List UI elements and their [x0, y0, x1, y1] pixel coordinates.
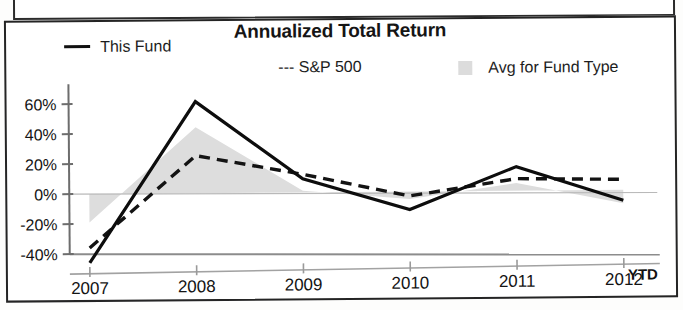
y-axis-ticks: 60%40%20%0%-20%-40%: [19, 96, 74, 263]
y-axis-tick-label: 20%: [25, 156, 57, 173]
y-axis-tick-label: -20%: [20, 216, 57, 233]
x-axis-ticks: 200720082009201020112012: [71, 258, 643, 298]
chart-plot-area: 60%40%20%0%-20%-40% 20072008200920102011…: [6, 17, 676, 300]
y-axis-tick-label: 60%: [24, 96, 56, 113]
x-axis-tick-label: 2010: [391, 273, 429, 292]
annualized-total-return-chart: Annualized Total Return This Fund --- S&…: [4, 15, 678, 302]
y-axis-tick-label: -40%: [20, 246, 57, 263]
x-axis-tick-rail: [70, 263, 660, 274]
y-axis-line: [68, 84, 69, 254]
x-axis-ytd-label: YTD: [628, 266, 658, 283]
series-area-avg-for-fund-type: [89, 124, 624, 223]
x-axis-tick-label: 2007: [71, 279, 109, 298]
y-axis-tick-label: 40%: [25, 126, 57, 143]
x-axis-tick-label: 2011: [499, 272, 536, 291]
x-axis-line: [70, 249, 660, 259]
x-axis-tick-label: 2009: [285, 275, 323, 294]
x-axis-tick-label: 2008: [178, 277, 216, 296]
y-axis-tick-label: 0%: [34, 186, 57, 203]
